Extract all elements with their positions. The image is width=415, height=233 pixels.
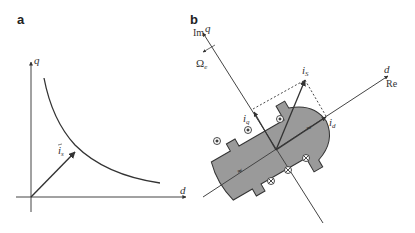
q-axis-b-label: q <box>205 22 211 34</box>
panel-a-label: a <box>17 12 25 27</box>
cross-conductor-icon <box>285 167 292 174</box>
dot-conductor-icon <box>214 138 221 145</box>
is-label-b: iS <box>302 64 309 78</box>
constant-torque-curve <box>44 78 160 183</box>
im-label: Im <box>193 27 204 38</box>
magnet-mark-south: ≠ <box>237 166 242 176</box>
svg-text:is: is <box>58 144 64 158</box>
magnet-mark-north: ≠ <box>306 123 311 133</box>
d-axis-label: d <box>180 184 186 196</box>
cross-conductor-icon <box>303 155 310 162</box>
is-vector <box>31 152 75 197</box>
id-label: id <box>329 116 336 130</box>
q-axis-label: q <box>34 54 40 66</box>
panel-b: b Im q Ωe d Re iS iq id ≠ ≠ <box>190 12 398 223</box>
iq-label: iq <box>243 112 250 126</box>
is-vector-label: is <box>58 144 64 158</box>
cross-conductor-icon <box>268 178 275 185</box>
re-label: Re <box>386 78 398 89</box>
panel-b-label: b <box>190 12 198 27</box>
d-axis-b-label: d <box>384 63 390 75</box>
panel-a: a q d is <box>16 12 186 212</box>
dot-conductor-icon <box>245 127 252 134</box>
omega-label: Ωe <box>196 57 207 71</box>
diagram-canvas: a q d is b Im q Ωe d Re <box>0 0 415 233</box>
dot-conductor-icon <box>277 116 284 123</box>
